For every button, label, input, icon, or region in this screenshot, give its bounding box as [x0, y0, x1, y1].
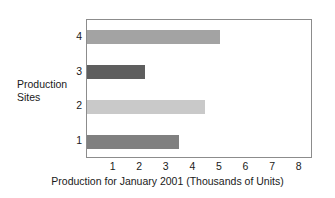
bar [87, 30, 220, 44]
x-tick-label: 6 [236, 160, 256, 172]
bar [87, 135, 179, 149]
x-tick-label: 8 [289, 160, 309, 172]
plot-area [86, 19, 312, 158]
bars-layer [87, 20, 311, 157]
x-tick-label: 2 [129, 160, 149, 172]
chart-screenshot: Production Sites 1234 12345678 Productio… [0, 0, 335, 198]
x-axis-tick-labels: 12345678 [86, 160, 312, 174]
x-axis-title: Production for January 2001 (Thousands o… [0, 175, 335, 187]
x-tick-label: 7 [262, 160, 282, 172]
x-tick-label: 3 [156, 160, 176, 172]
x-tick-label: 1 [103, 160, 123, 172]
y-tick-label: 2 [68, 100, 82, 111]
x-tick-label: 5 [209, 160, 229, 172]
bar [87, 65, 145, 79]
y-tick-label: 4 [68, 31, 82, 42]
y-axis-tick-labels: 1234 [66, 19, 82, 158]
y-tick-label: 3 [68, 66, 82, 77]
bar [87, 100, 205, 114]
y-tick-label: 1 [68, 135, 82, 146]
x-tick-label: 4 [182, 160, 202, 172]
